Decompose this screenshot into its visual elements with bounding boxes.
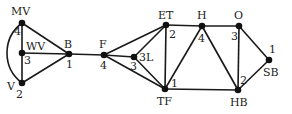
edge-F-ET — [104, 25, 166, 55]
node-H — [199, 23, 206, 30]
degree-WV: 3 — [24, 54, 31, 67]
node-F — [101, 52, 108, 59]
degree-3L: 3 — [130, 60, 137, 73]
edges — [7, 23, 269, 90]
label-H: H — [197, 9, 207, 22]
label-B: B — [64, 38, 72, 51]
label-O: O — [234, 9, 243, 22]
label-HB: HB — [230, 96, 248, 109]
node-HB — [235, 87, 242, 94]
degree-B: 1 — [66, 58, 73, 71]
label-F: F — [99, 38, 107, 51]
label-WV: WV — [26, 40, 46, 53]
degree-F: 4 — [100, 59, 107, 72]
degree-H: 4 — [198, 32, 205, 45]
edge-ET-TF — [165, 25, 166, 89]
node-O — [236, 23, 243, 30]
node-B — [66, 51, 73, 58]
label-MV: MV — [11, 5, 31, 18]
node-SB — [266, 57, 273, 64]
graph-diagram: MV WV V B F 3L ET TF H O HB SB 4 3 2 1 4… — [0, 0, 292, 114]
degree-ET: 2 — [169, 28, 176, 41]
degree-SB: 1 — [269, 43, 276, 56]
edge-B-F — [69, 54, 104, 55]
degree-O: 3 — [231, 30, 238, 43]
degree-TF: 1 — [171, 77, 178, 90]
label-ET: ET — [158, 9, 174, 22]
edge-ET-H — [166, 25, 202, 26]
label-3L: 3L — [139, 51, 154, 64]
label-V: V — [6, 80, 16, 93]
degree-V: 2 — [16, 88, 23, 101]
node-TF — [162, 86, 169, 93]
label-TF: TF — [157, 95, 172, 108]
degree-MV: 4 — [14, 25, 21, 38]
edge-O-HB — [238, 26, 239, 90]
label-SB: SB — [263, 66, 279, 79]
edge-O-SB — [239, 26, 269, 60]
node-V — [19, 80, 26, 87]
degree-HB: 2 — [240, 74, 247, 87]
